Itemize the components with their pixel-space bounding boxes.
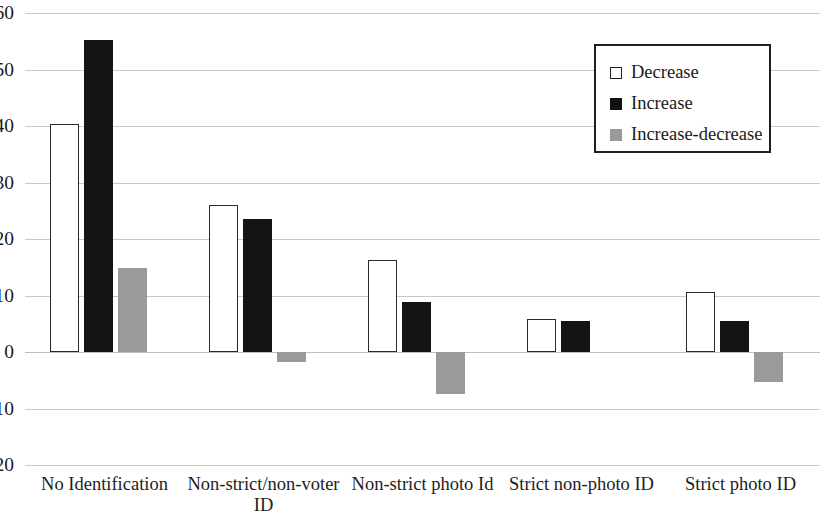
y-axis-tick-label: 0	[0, 342, 14, 362]
chart-legend: Decrease Increase Increase-decrease	[594, 44, 771, 153]
gridline-0	[25, 352, 820, 353]
y-axis-tick-label: 30	[0, 173, 14, 193]
bar	[561, 321, 590, 352]
bar	[368, 260, 397, 352]
x-axis-label: Strict non-photo ID	[502, 474, 661, 495]
bar	[209, 205, 238, 352]
bar	[686, 292, 715, 352]
gridline-60	[25, 13, 820, 14]
bar	[754, 352, 783, 382]
open-square-swatch-icon	[610, 67, 622, 79]
bar	[527, 319, 556, 352]
bar	[243, 219, 272, 352]
bar	[84, 40, 113, 352]
y-axis-tick-label: 20	[0, 229, 14, 249]
bar	[50, 124, 79, 352]
x-axis-label: Strict photo ID	[661, 474, 820, 495]
filled-gray-square-swatch-icon	[610, 129, 622, 141]
gridline-30	[25, 183, 820, 184]
bar	[118, 268, 147, 352]
bar	[402, 302, 431, 352]
gridline--10	[25, 409, 820, 410]
y-axis-tick-label: 40	[0, 116, 14, 136]
legend-item-increase: Increase	[610, 88, 769, 119]
x-axis-label: Non-strict photo Id	[343, 474, 502, 495]
legend-item-increase-decrease: Increase-decrease	[610, 119, 769, 150]
gridline-20	[25, 239, 820, 240]
y-axis-tick-label: 10	[0, 286, 14, 306]
y-axis-tick-label: -10	[0, 399, 14, 419]
filled-black-square-swatch-icon	[610, 98, 622, 110]
y-axis-tick-label: 60	[0, 3, 14, 23]
legend-item-decrease: Decrease	[610, 57, 769, 88]
bar	[277, 352, 306, 362]
legend-label-increase: Increase	[631, 94, 693, 113]
y-axis-tick-label: 50	[0, 60, 14, 80]
legend-label-increase-decrease: Increase-decrease	[631, 125, 762, 144]
x-axis-label: No Identification	[25, 474, 184, 495]
bar	[436, 352, 465, 394]
y-axis-tick-label: -20	[0, 455, 14, 475]
bar	[720, 321, 749, 352]
x-axis-label: Non-strict/non-voter ID	[184, 474, 343, 516]
gridline--20	[25, 465, 820, 466]
legend-label-decrease: Decrease	[631, 63, 699, 82]
bar-chart: 6050403020100-10-20 No IdentificationNon…	[0, 0, 826, 520]
